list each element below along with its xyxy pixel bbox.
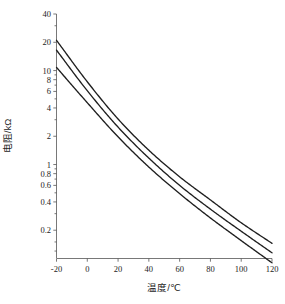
y-tick-label: 0.6: [40, 180, 51, 190]
x-tick-label: -20: [51, 264, 62, 274]
chart-figure: 402010864210.80.60.40.2 -200204060801001…: [0, 0, 285, 304]
y-axis-title: 电阻/kΩ: [2, 119, 13, 154]
x-tick-label: 20: [114, 264, 123, 274]
y-tick-label: 40: [43, 9, 52, 19]
x-axis-title: 温度/℃: [147, 282, 181, 293]
x-tick-label: 40: [145, 264, 154, 274]
y-tick-label: 0.4: [40, 197, 51, 207]
chart-plot-area: 402010864210.80.60.40.2 -200204060801001…: [0, 0, 285, 304]
y-tick-label: 2: [47, 131, 51, 141]
y-tick-label: 20: [43, 37, 52, 47]
x-tick-label: 0: [85, 264, 89, 274]
y-tick-label: 0.2: [40, 225, 51, 235]
y-tick-label: 6: [47, 86, 51, 96]
x-tick-label: 80: [206, 264, 215, 274]
y-tick-label: 8: [47, 75, 51, 85]
x-tick-label: 100: [235, 264, 248, 274]
x-tick-label: 60: [175, 264, 184, 274]
x-tick-label: 120: [266, 264, 279, 274]
y-tick-label: 0.8: [40, 169, 51, 179]
